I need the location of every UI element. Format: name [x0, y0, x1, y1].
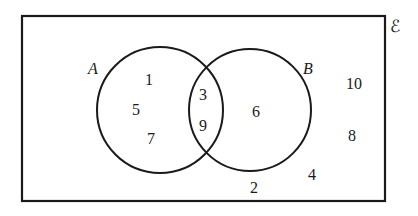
region-intersection-element: 3 — [199, 86, 207, 103]
region-a-only-element: 1 — [145, 71, 153, 88]
set-b-circle — [189, 49, 311, 171]
region-outside-element: 4 — [308, 166, 316, 183]
region-outside-element: 2 — [250, 179, 258, 196]
region-a-only-element: 5 — [132, 101, 140, 118]
region-intersection-element: 9 — [199, 117, 207, 134]
set-a-label: A — [87, 60, 98, 77]
region-b-only-element: 6 — [252, 103, 260, 120]
universal-set-symbol: ℰ — [390, 17, 400, 36]
venn-diagram: ℰ A B 1 5 7 3 9 6 10 8 4 2 — [0, 0, 418, 216]
region-a-only-element: 7 — [147, 130, 155, 147]
region-outside-element: 10 — [346, 75, 362, 92]
universal-set-rectangle — [22, 16, 385, 201]
set-b-label: B — [303, 60, 313, 77]
set-a-circle — [97, 47, 223, 173]
region-outside-element: 8 — [348, 127, 356, 144]
